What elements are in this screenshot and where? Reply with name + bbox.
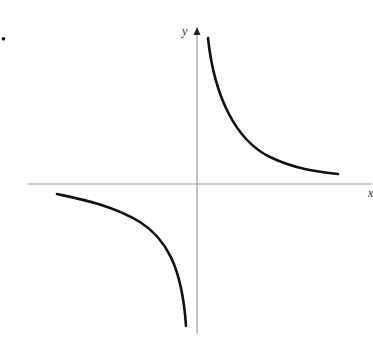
x-axis-label: x bbox=[368, 186, 373, 201]
y-axis-label: y bbox=[182, 24, 187, 39]
curve-branch-quadrant-3 bbox=[57, 194, 186, 326]
y-axis bbox=[194, 27, 201, 334]
y-axis-arrow-icon bbox=[194, 27, 201, 35]
curve-branch-quadrant-1 bbox=[208, 38, 338, 174]
